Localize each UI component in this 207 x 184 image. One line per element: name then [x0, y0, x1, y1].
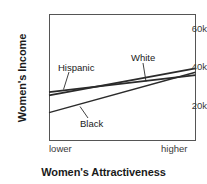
x-axis-title: Women's Attractiveness [0, 166, 207, 178]
y-tick-label-60k: 60k [161, 23, 207, 34]
chart-figure: Women's Income 60k 40k 20k lower higher … [0, 0, 207, 184]
x-tick-label-higher: higher [161, 143, 187, 154]
y-axis-title: Women's Income [16, 23, 28, 133]
y-tick-label-20k: 20k [161, 100, 207, 111]
series-label-black: Black [80, 118, 103, 129]
y-tick-label-40k: 40k [161, 61, 207, 72]
series-label-white: White [131, 52, 155, 63]
x-tick-label-lower: lower [49, 143, 72, 154]
series-label-hispanic: Hispanic [58, 62, 94, 73]
